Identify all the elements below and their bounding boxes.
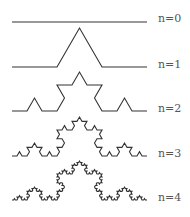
koch-curve-n3 [12,117,147,156]
label-n4: n=4 [158,192,181,204]
koch-curve-n2 [12,72,147,111]
label-n2: n=2 [158,103,181,115]
koch-curve-n1 [12,28,147,67]
koch-curve-n4 [12,161,147,200]
label-n1: n=1 [158,59,181,71]
label-n0: n=0 [158,13,181,25]
label-n3: n=3 [158,148,181,160]
